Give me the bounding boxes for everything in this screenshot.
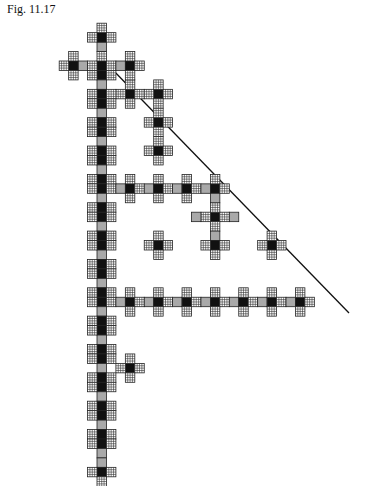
grid-cell: [220, 212, 229, 221]
black-cell: [154, 184, 163, 193]
gray-cell: [258, 297, 267, 306]
gray-cell: [229, 297, 238, 306]
black-cell: [97, 297, 106, 306]
gray-cell: [116, 61, 125, 70]
gray-cell: [210, 231, 219, 240]
gray-cell: [116, 297, 125, 306]
grid-cell: [182, 288, 191, 297]
black-cell: [97, 127, 106, 136]
grid-cell: [106, 241, 115, 250]
grid-cell: [135, 297, 144, 306]
grid-cell: [88, 89, 97, 98]
black-cell: [182, 184, 191, 193]
grid-cell: [106, 316, 115, 325]
gray-cell: [97, 278, 106, 287]
black-cell: [154, 146, 163, 155]
black-cell: [97, 156, 106, 165]
grid-cell: [210, 288, 219, 297]
black-cell: [154, 118, 163, 127]
grid-cell: [210, 203, 219, 212]
black-cell: [295, 297, 304, 306]
grid-cell: [106, 118, 115, 127]
grid-cell: [106, 411, 115, 420]
grid-cell: [125, 99, 134, 108]
black-cell: [210, 241, 219, 250]
black-cell: [154, 241, 163, 250]
grid-cell: [88, 297, 97, 306]
grid-cell: [182, 307, 191, 316]
grid-cell: [106, 259, 115, 268]
grid-cell: [88, 467, 97, 476]
gray-cell: [97, 363, 106, 372]
black-cell: [267, 297, 276, 306]
grid-cell: [210, 307, 219, 316]
black-cell: [97, 467, 106, 476]
grid-cell: [135, 363, 144, 372]
grid-cell: [88, 345, 97, 354]
grid-cell: [97, 477, 106, 486]
grid-cell: [88, 382, 97, 391]
black-cell: [210, 297, 219, 306]
black-cell: [125, 89, 134, 98]
grid-cell: [88, 373, 97, 382]
black-cell: [182, 297, 191, 306]
grid-cell: [210, 250, 219, 259]
black-cell: [97, 411, 106, 420]
grid-cell: [125, 52, 134, 61]
gray-cell: [97, 42, 106, 51]
grid-cell: [88, 33, 97, 42]
black-cell: [210, 212, 219, 221]
black-cell: [97, 61, 106, 70]
grid-cell: [135, 184, 144, 193]
grid-cell: [88, 146, 97, 155]
black-cell: [97, 118, 106, 127]
gray-cell: [97, 392, 106, 401]
grid-cell: [182, 174, 191, 183]
black-cell: [97, 184, 106, 193]
grid-cell: [106, 373, 115, 382]
gray-cell: [97, 250, 106, 259]
grid-cell: [106, 326, 115, 335]
grid-cell: [106, 203, 115, 212]
grid-cell: [154, 231, 163, 240]
grid-cell: [154, 250, 163, 259]
gray-cell: [97, 307, 106, 316]
grid-cell: [88, 203, 97, 212]
gray-cell: [97, 222, 106, 231]
grid-cell: [220, 297, 229, 306]
black-cell: [97, 401, 106, 410]
gray-cell: [201, 184, 210, 193]
black-cell: [154, 297, 163, 306]
grid-cell: [125, 174, 134, 183]
grid-cell: [295, 288, 304, 297]
black-cell: [97, 70, 106, 79]
grid-cell: [163, 89, 172, 98]
black-cell: [97, 259, 106, 268]
black-cell: [97, 430, 106, 439]
grid-cell: [116, 89, 125, 98]
grid-cell: [106, 212, 115, 221]
grid-cell: [59, 61, 68, 70]
grid-cell: [248, 297, 257, 306]
gray-cell: [97, 108, 106, 117]
grid-cell: [88, 241, 97, 250]
grid-cell: [267, 231, 276, 240]
grid-cell: [106, 269, 115, 278]
black-cell: [125, 184, 134, 193]
black-cell: [125, 297, 134, 306]
grid-cell: [125, 354, 134, 363]
grid-cell: [88, 184, 97, 193]
grid-cell: [88, 61, 97, 70]
grid-cell: [106, 345, 115, 354]
grid-cell: [154, 108, 163, 117]
grid-cell: [125, 373, 134, 382]
gray-cell: [78, 61, 87, 70]
grid-cell: [88, 231, 97, 240]
grid-cell: [88, 212, 97, 221]
grid-cell: [277, 297, 286, 306]
gray-cell: [286, 297, 295, 306]
black-cell: [97, 146, 106, 155]
grid-cell: [88, 326, 97, 335]
gray-cell: [97, 335, 106, 344]
grid-cell: [106, 382, 115, 391]
